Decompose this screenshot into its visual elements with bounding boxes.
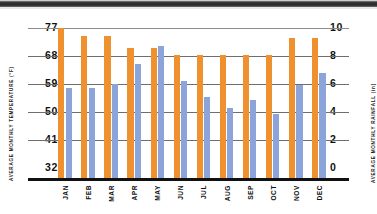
bar-group-dec bbox=[310, 28, 328, 178]
month-text-apr: APR bbox=[131, 185, 138, 201]
bar-group-jun bbox=[171, 28, 189, 178]
rainfall-bar-jan bbox=[66, 88, 72, 178]
right-tick-2: 2 bbox=[330, 133, 336, 145]
rainfall-bar-jun bbox=[181, 81, 187, 179]
temperature-bar-oct bbox=[266, 55, 272, 178]
temperature-bar-sep bbox=[243, 55, 249, 178]
bar-group-apr bbox=[125, 28, 143, 178]
month-label-jun: JUN bbox=[171, 183, 189, 214]
temperature-bar-may bbox=[151, 48, 157, 178]
x-axis-month-labels: JAN FEB MAR APR MAY JUN JUL AUG SEP OCT … bbox=[56, 183, 328, 214]
right-axis-label: AVERAGE MONTHLY RAINFALL (in) bbox=[371, 83, 376, 183]
scanned-page-edge bbox=[0, 0, 377, 7]
right-tick-0: 0 bbox=[330, 161, 336, 173]
month-label-jul: JUL bbox=[194, 183, 212, 214]
temperature-bar-aug bbox=[220, 55, 226, 178]
temperature-bar-jun bbox=[174, 55, 180, 178]
month-text-oct: OCT bbox=[269, 185, 276, 201]
bar-group-aug bbox=[217, 28, 235, 178]
bar-group-jan bbox=[56, 28, 74, 178]
right-tick-6: 6 bbox=[330, 77, 336, 89]
climate-bar-chart: AVERAGE MONTHLY TEMPERATURE (°F) AVERAGE… bbox=[0, 9, 377, 214]
temperature-bar-dec bbox=[312, 38, 318, 178]
bar-group-feb bbox=[79, 28, 97, 178]
rainfall-bar-feb bbox=[89, 88, 95, 178]
month-text-may: MAY bbox=[154, 185, 161, 201]
rainfall-bar-sep bbox=[250, 100, 256, 178]
bar-group-sep bbox=[241, 28, 259, 178]
month-text-jul: JUL bbox=[200, 185, 207, 199]
right-tick-10: 10 bbox=[330, 21, 343, 33]
month-label-jan: JAN bbox=[56, 183, 74, 214]
temperature-bar-apr bbox=[127, 48, 133, 178]
month-text-mar: MAR bbox=[108, 185, 115, 202]
month-label-dec: DEC bbox=[310, 183, 328, 214]
rainfall-bar-mar bbox=[112, 84, 118, 179]
temperature-bar-feb bbox=[81, 36, 87, 178]
temperature-bar-jul bbox=[197, 55, 203, 178]
month-label-sep: SEP bbox=[241, 183, 259, 214]
month-label-nov: NOV bbox=[287, 183, 305, 214]
right-tick-8: 8 bbox=[330, 49, 336, 61]
rainfall-bar-nov bbox=[296, 85, 302, 178]
bar-group-nov bbox=[287, 28, 305, 178]
rainfall-bar-apr bbox=[135, 64, 141, 178]
rainfall-bar-may bbox=[158, 46, 164, 178]
month-text-dec: DEC bbox=[315, 185, 322, 201]
month-text-feb: FEB bbox=[85, 185, 92, 200]
bar-group-jul bbox=[194, 28, 212, 178]
month-text-aug: AUG bbox=[223, 185, 230, 201]
month-label-may: MAY bbox=[148, 183, 166, 214]
month-text-nov: NOV bbox=[292, 185, 299, 201]
month-label-mar: MAR bbox=[102, 183, 120, 214]
temperature-bar-jan bbox=[58, 28, 64, 178]
month-label-oct: OCT bbox=[264, 183, 282, 214]
temperature-bar-mar bbox=[104, 36, 110, 178]
month-label-aug: AUG bbox=[217, 183, 235, 214]
temperature-bar-nov bbox=[289, 38, 295, 178]
rainfall-bar-aug bbox=[227, 108, 233, 179]
bar-group-may bbox=[148, 28, 166, 178]
month-text-sep: SEP bbox=[246, 185, 253, 200]
rainfall-bar-oct bbox=[273, 114, 279, 179]
month-text-jun: JUN bbox=[177, 185, 184, 200]
right-tick-4: 4 bbox=[330, 105, 336, 117]
month-text-jan: JAN bbox=[62, 185, 69, 200]
bar-group-oct bbox=[264, 28, 282, 178]
rainfall-bar-dec bbox=[319, 73, 325, 178]
left-axis-label: AVERAGE MONTHLY TEMPERATURE (°F) bbox=[9, 66, 14, 181]
x-axis-baseline bbox=[28, 178, 349, 181]
month-label-feb: FEB bbox=[79, 183, 97, 214]
bar-group-mar bbox=[102, 28, 120, 178]
rainfall-bar-jul bbox=[204, 97, 210, 178]
month-label-apr: APR bbox=[125, 183, 143, 214]
bar-groups bbox=[56, 28, 328, 178]
